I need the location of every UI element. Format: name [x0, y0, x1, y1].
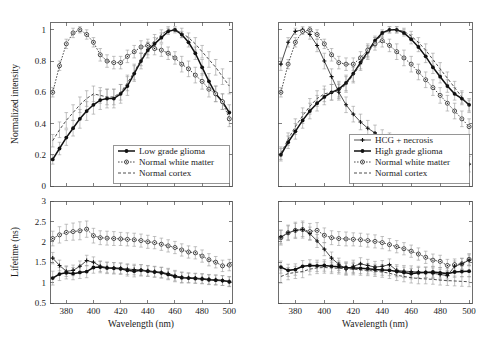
legend-label: Normal cortex	[375, 168, 428, 178]
series-2-marker	[91, 260, 95, 264]
series-0-marker	[207, 79, 211, 83]
series-0-marker	[193, 51, 197, 55]
series-1-marker-center	[181, 63, 182, 64]
series-2-marker-center	[345, 63, 346, 64]
series-1-marker	[293, 129, 297, 133]
y-tick-label: 2.5	[35, 217, 47, 227]
series-0-marker	[200, 65, 204, 69]
series-0-marker-center	[134, 239, 135, 240]
series-0-marker	[85, 109, 89, 113]
series-2-marker-center	[353, 63, 354, 64]
series-0-marker-center	[93, 235, 94, 236]
series-1-marker	[92, 266, 96, 270]
series-1-marker	[402, 31, 406, 35]
series-0-marker-center	[222, 265, 223, 266]
series-0-marker-center	[188, 251, 189, 252]
series-0-marker	[71, 126, 75, 130]
series-0-marker	[51, 158, 55, 162]
series-2-marker-center	[410, 63, 411, 64]
series-1-marker	[279, 153, 283, 157]
panel-lifetime-low-grade: 3804004204404604805000.511.522.53Lifetim…	[0, 193, 240, 361]
y-tick-label: 1	[42, 278, 47, 288]
series-1-marker-center	[100, 54, 101, 55]
legend-label: Normal cortex	[139, 168, 192, 178]
series-2-marker-center	[295, 42, 296, 43]
series-1-marker	[438, 75, 442, 79]
series-0-marker-center	[396, 246, 397, 247]
series-2-marker	[220, 279, 224, 283]
series-0-marker-center	[174, 247, 175, 248]
series-1-marker	[315, 101, 319, 105]
series-2-marker	[322, 264, 326, 268]
series-1-marker	[85, 270, 89, 274]
series-2-marker-center	[418, 71, 419, 72]
series-1-marker-center	[195, 74, 196, 75]
series-2-marker	[402, 271, 406, 275]
series-0-marker-center	[345, 238, 346, 239]
chart-intensity-low-grade: 00.20.40.60.81Normalized intensityLow gr…	[0, 0, 240, 193]
legend-2-marker-center	[362, 161, 363, 162]
series-2-marker-center	[396, 51, 397, 52]
series-1-marker-center	[66, 43, 67, 44]
series-1-marker-center	[208, 88, 209, 89]
series-0-marker	[322, 59, 326, 63]
series-1-marker-center	[174, 57, 175, 58]
series-0-marker-center	[154, 242, 155, 243]
legend-0-marker	[125, 149, 129, 153]
series-2-marker	[467, 269, 471, 273]
series-1-marker-center	[79, 29, 80, 30]
series-0-marker	[92, 103, 96, 107]
series-2-marker	[380, 268, 384, 272]
x-tick-label: 440	[375, 306, 389, 316]
series-1-marker-center	[52, 92, 53, 93]
series-1-marker-center	[127, 56, 128, 57]
series-1-marker-center	[120, 62, 121, 63]
series-0-marker-center	[410, 250, 411, 251]
legend-label: HCG + necrosis	[375, 135, 434, 145]
chart-intensity-high-grade: HCG + necrosisHigh grade gliomaNormal wh…	[240, 0, 480, 193]
series-2-marker-center	[302, 31, 303, 32]
x-tick-label: 420	[114, 306, 128, 316]
y-tick-label: 0	[42, 181, 47, 191]
series-1-marker-center	[72, 32, 73, 33]
y-axis-title: Normalized intensity	[10, 64, 20, 144]
x-tick-label: 480	[433, 306, 447, 316]
series-0-marker-center	[208, 259, 209, 260]
x-tick-label: 400	[87, 306, 101, 316]
series-1-marker-center	[215, 93, 216, 94]
x-axis-title: Wavelength (nm)	[108, 319, 174, 330]
series-2-marker	[315, 264, 319, 268]
series-2-marker	[279, 265, 283, 269]
series-1-marker-center	[140, 46, 141, 47]
series-0-marker	[187, 40, 191, 44]
series-0-marker-center	[425, 257, 426, 258]
series-2-marker-center	[382, 40, 383, 41]
series-0-marker-center	[331, 237, 332, 238]
series-0-marker-center	[316, 230, 317, 231]
series-2-marker	[395, 270, 399, 274]
series-1-marker	[308, 109, 312, 113]
series-1-marker	[431, 65, 435, 69]
series-2-marker-center	[280, 92, 281, 93]
series-1-marker-center	[106, 60, 107, 61]
series-2-marker-center	[360, 57, 361, 58]
series-2-marker	[71, 268, 75, 272]
series-1-marker-center	[93, 42, 94, 43]
series-1-marker-center	[134, 51, 135, 52]
series-2-marker	[293, 268, 297, 272]
series-2-marker	[308, 264, 312, 268]
figure-root: 00.20.40.60.81Normalized intensityLow gr…	[0, 0, 480, 361]
series-0-marker-center	[360, 239, 361, 240]
x-tick-label: 500	[462, 306, 476, 316]
legend-label: Low grade glioma	[139, 146, 205, 156]
legend-1-marker-center	[126, 161, 127, 162]
panel-intensity-low-grade: 00.20.40.60.81Normalized intensityLow gr…	[0, 0, 240, 193]
series-2-marker-center	[331, 54, 332, 55]
series-0-marker-center	[100, 237, 101, 238]
series-2-marker-center	[287, 63, 288, 64]
series-0-marker-center	[439, 261, 440, 262]
series-2-marker-center	[425, 79, 426, 80]
series-2-marker	[453, 270, 457, 274]
series-1-marker	[409, 37, 413, 41]
legend-label: Normal white matter	[375, 157, 450, 167]
